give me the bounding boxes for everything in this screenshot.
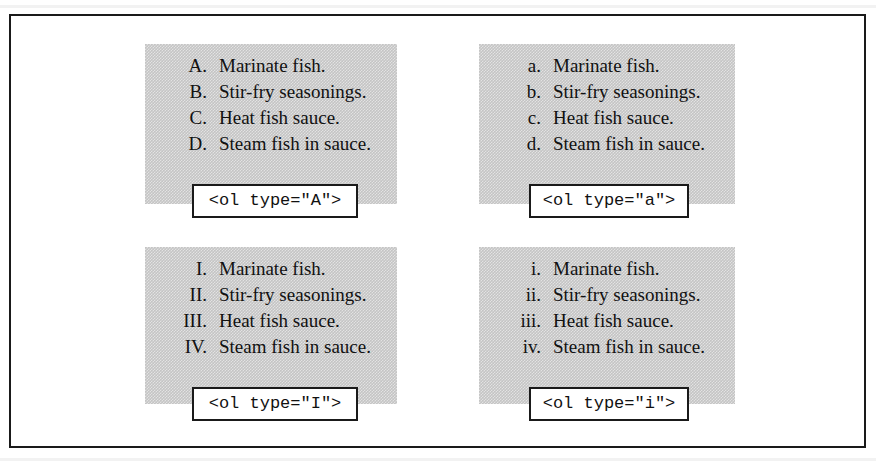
code-label-lowercase-alpha: <ol type="a"> [529, 184, 689, 218]
scan-edge-bottom [0, 458, 876, 461]
ordered-list-uppercase-alpha: A. Marinate fish. B. Stir-fry seasonings… [145, 53, 397, 157]
code-label-lowercase-roman: <ol type="i"> [529, 387, 689, 421]
figure-frame: A. Marinate fish. B. Stir-fry seasonings… [9, 14, 866, 448]
scan-edge-top [0, 5, 876, 8]
list-item-text: Stir-fry seasonings. [207, 282, 366, 308]
example-type-lowercase-roman: i. Marinate fish. ii. Stir-fry seasoning… [479, 247, 735, 421]
list-item-marker: a. [479, 53, 541, 79]
list-item: B. Stir-fry seasonings. [145, 79, 397, 105]
list-item-text: Heat fish sauce. [541, 308, 674, 334]
list-item-marker: B. [145, 79, 207, 105]
list-item: I. Marinate fish. [145, 256, 397, 282]
list-item-marker: i. [479, 256, 541, 282]
code-label-uppercase-roman: <ol type="I"> [192, 387, 358, 421]
example-type-lowercase-alpha: a. Marinate fish. b. Stir-fry seasonings… [479, 44, 735, 218]
list-item: iii. Heat fish sauce. [479, 308, 735, 334]
list-item-text: Stir-fry seasonings. [207, 79, 366, 105]
list-item: ii. Stir-fry seasonings. [479, 282, 735, 308]
list-item: A. Marinate fish. [145, 53, 397, 79]
list-item: IV. Steam fish in sauce. [145, 334, 397, 360]
code-label-uppercase-alpha: <ol type="A"> [192, 184, 358, 218]
list-item: a. Marinate fish. [479, 53, 735, 79]
list-item-marker: IV. [145, 334, 207, 360]
list-item-marker: ii. [479, 282, 541, 308]
list-item-text: Stir-fry seasonings. [541, 79, 700, 105]
list-item-text: Steam fish in sauce. [207, 334, 371, 360]
list-item-marker: C. [145, 105, 207, 131]
list-item-marker: III. [145, 308, 207, 334]
list-item-text: Steam fish in sauce. [541, 131, 705, 157]
list-item-text: Marinate fish. [541, 53, 660, 79]
list-item-marker: II. [145, 282, 207, 308]
list-item-text: Steam fish in sauce. [207, 131, 371, 157]
list-item-text: Heat fish sauce. [207, 308, 340, 334]
list-item: D. Steam fish in sauce. [145, 131, 397, 157]
list-item: i. Marinate fish. [479, 256, 735, 282]
list-item-marker: iv. [479, 334, 541, 360]
list-item-text: Marinate fish. [207, 256, 326, 282]
list-item: c. Heat fish sauce. [479, 105, 735, 131]
list-item: II. Stir-fry seasonings. [145, 282, 397, 308]
list-item: iv. Steam fish in sauce. [479, 334, 735, 360]
ordered-list-uppercase-roman: I. Marinate fish. II. Stir-fry seasoning… [145, 256, 397, 360]
example-type-uppercase-roman: I. Marinate fish. II. Stir-fry seasoning… [145, 247, 397, 421]
list-item-marker: iii. [479, 308, 541, 334]
list-item-marker: d. [479, 131, 541, 157]
list-item-marker: D. [145, 131, 207, 157]
example-type-uppercase-alpha: A. Marinate fish. B. Stir-fry seasonings… [145, 44, 397, 218]
list-item-text: Marinate fish. [541, 256, 660, 282]
ordered-list-lowercase-alpha: a. Marinate fish. b. Stir-fry seasonings… [479, 53, 735, 157]
ordered-list-lowercase-roman: i. Marinate fish. ii. Stir-fry seasoning… [479, 256, 735, 360]
list-item: b. Stir-fry seasonings. [479, 79, 735, 105]
list-item: III. Heat fish sauce. [145, 308, 397, 334]
list-item: d. Steam fish in sauce. [479, 131, 735, 157]
list-item-text: Heat fish sauce. [207, 105, 340, 131]
list-item-text: Steam fish in sauce. [541, 334, 705, 360]
list-item-marker: c. [479, 105, 541, 131]
list-item-text: Stir-fry seasonings. [541, 282, 700, 308]
list-item-marker: A. [145, 53, 207, 79]
list-item-text: Marinate fish. [207, 53, 326, 79]
list-item-marker: I. [145, 256, 207, 282]
list-item-marker: b. [479, 79, 541, 105]
list-item-text: Heat fish sauce. [541, 105, 674, 131]
list-item: C. Heat fish sauce. [145, 105, 397, 131]
